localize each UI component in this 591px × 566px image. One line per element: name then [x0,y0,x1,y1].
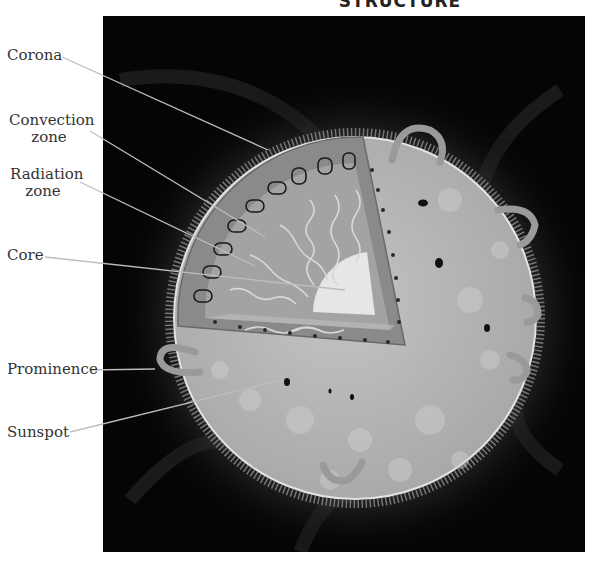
label-radiation-zone: Radiation zone [10,166,76,200]
label-radiation-line2: zone [10,183,76,200]
label-corona: Corona [7,47,62,64]
sun-illustration [0,0,591,566]
label-prominence: Prominence [7,361,98,378]
label-convection-line2: zone [9,129,89,146]
label-convection-line1: Convection [9,112,89,129]
label-sunspot: Sunspot [7,424,69,441]
label-radiation-line1: Radiation [10,166,76,183]
label-core: Core [7,247,44,264]
label-convection-zone: Convection zone [9,112,89,146]
